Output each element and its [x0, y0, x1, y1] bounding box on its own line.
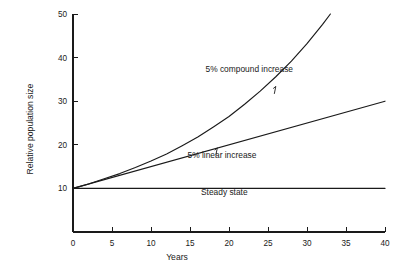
x-tick-label: 5: [110, 239, 115, 248]
x-axis-title: Years: [166, 252, 188, 262]
x-tick-label: 40: [380, 239, 390, 248]
chart-background: [0, 0, 412, 279]
x-tick-label: 10: [146, 239, 156, 248]
x-tick-label: 15: [185, 239, 195, 248]
y-tick-label: 10: [58, 184, 68, 193]
y-tick-label: 40: [58, 54, 68, 63]
population-growth-line-chart: 1020304050 0510152025303540 5% compound …: [0, 0, 412, 279]
annotation-label: 5% linear increase: [188, 150, 257, 160]
y-tick-label: 20: [58, 141, 68, 150]
x-tick-label: 0: [71, 239, 76, 248]
chart-figure: 1020304050 0510152025303540 5% compound …: [0, 0, 412, 279]
x-tick-label: 35: [341, 239, 351, 248]
annotation-label: Steady state: [201, 187, 248, 197]
y-tick-label: 50: [58, 10, 68, 19]
annotation-label: 5% compound increase: [206, 64, 294, 74]
y-axis-title: Relative population size: [25, 83, 35, 174]
x-tick-label: 25: [263, 239, 273, 248]
x-tick-label: 30: [302, 239, 312, 248]
y-tick-label: 30: [58, 97, 68, 106]
x-tick-label: 20: [224, 239, 234, 248]
